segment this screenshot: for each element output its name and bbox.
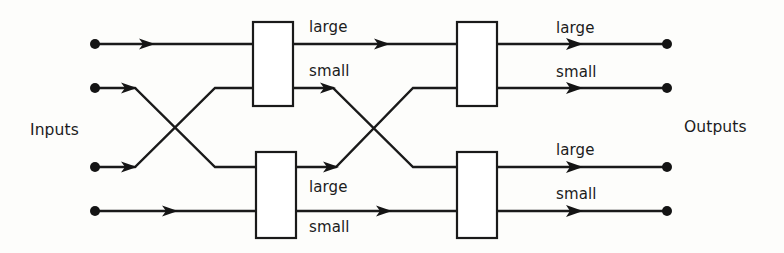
edge-label-stage2-bottom-small: small	[556, 185, 596, 203]
edge-label-stage1-top-small: small	[309, 62, 349, 80]
inputs-label: Inputs	[30, 121, 79, 139]
edge-label-stage1-top-large: large	[309, 18, 348, 36]
edge-label-stage1-bottom-small: small	[309, 218, 349, 236]
edge-label-stage2-bottom-large: large	[556, 141, 595, 159]
wire-input3-cross-up	[95, 88, 253, 167]
outputs-label: Outputs	[684, 118, 747, 136]
comparator-box-top-left	[253, 22, 293, 106]
edge-label-stage2-top-large: large	[556, 19, 595, 37]
network-drawing	[0, 0, 784, 253]
terminal-output-2	[662, 83, 672, 93]
comparator-box-bottom-left	[256, 152, 296, 238]
edge-label-stage1-bottom-large: large	[309, 178, 348, 196]
sorting-network-diagram: Inputs Outputs large small large small l…	[0, 0, 784, 253]
terminal-input-3	[90, 162, 100, 172]
terminal-input-1	[90, 39, 100, 49]
edge-label-stage2-top-small: small	[556, 63, 596, 81]
wire-stage1-bottom-large-cross-up	[296, 88, 457, 167]
comparator-box-bottom-right	[457, 152, 497, 238]
terminal-input-2	[90, 83, 100, 93]
terminal-output-1	[662, 39, 672, 49]
terminal-output-4	[662, 206, 672, 216]
terminal-input-4	[90, 206, 100, 216]
comparator-box-top-right	[457, 22, 497, 106]
terminal-output-3	[662, 162, 672, 172]
